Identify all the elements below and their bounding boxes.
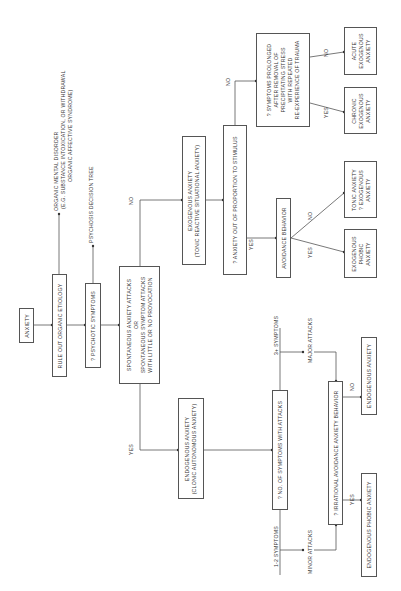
- edge-label-yes: YES: [323, 107, 330, 118]
- text-line: OR: [133, 277, 140, 374]
- node-prolonged-label: ? SYMPTOMS PROLONGED AFTER REMOVAL OF PR…: [266, 41, 301, 120]
- text-line: ANXIETY: [364, 236, 371, 271]
- node-anxiety-label: ANXIETY: [23, 314, 30, 338]
- edge-label-yes: YES: [307, 247, 314, 258]
- edge-label-1-2-symptoms: 1-2 SYMPTOMS: [273, 526, 280, 567]
- text-line: EXOGENOUS ANXIETY: [187, 144, 194, 256]
- node-acute-exogenous: ACUTE EXOGENOUS ANXIETY: [344, 27, 377, 75]
- text-line: EXOGENOUS: [350, 236, 357, 271]
- node-spontaneous-attacks: SPONTANEOUS ANXIETY ATTACKS OR SPONTANEO…: [119, 266, 160, 384]
- node-exogenous-phobic-label: EXOGENOUS PHOBIC ANXIETY: [350, 236, 371, 271]
- text-line: EXOGENOUS: [357, 33, 364, 68]
- node-endogenous-label: ENDOGENOUS ANXIETY (CLONIC AUTONOMOUS AN…: [184, 403, 198, 494]
- node-out-of-proportion-label: ? ANXIETY OUT OF PROPORTION TO STIMULUS: [232, 136, 239, 263]
- edge-label-minor-attacks: MINOR ATTACKS: [307, 530, 314, 574]
- organic-disorder-text-1: ORGANIC MENTAL DISORDER: [53, 131, 60, 211]
- node-rule-out-organic: RULE OUT ORGANIC ETIOLOGY: [52, 274, 67, 377]
- text-line: ? EXOGENOUS: [357, 169, 364, 211]
- text-line: AFTER REMOVAL OF: [273, 41, 280, 120]
- edge-label-major-attacks: MAJOR ATTACKS: [307, 318, 314, 363]
- node-out-of-proportion: ? ANXIETY OUT OF PROPORTION TO STIMULUS: [223, 125, 247, 275]
- node-exogenous-anxiety: EXOGENOUS ANXIETY (TONIC REACTIVE SITUAT…: [182, 136, 206, 265]
- node-avoidance-behavior: AVOIDANCE BEHAVIOR: [276, 198, 291, 278]
- edge-label-3plus-symptoms: 3+ SYMPTOMS: [273, 316, 280, 355]
- text-line: EXOGENOUS: [357, 93, 364, 128]
- text-line: ACUTE: [350, 33, 357, 68]
- node-exogenous-label: EXOGENOUS ANXIETY (TONIC REACTIVE SITUAT…: [187, 144, 201, 256]
- organic-disorder-text-3: ORGANIC AFFECTIVE SYNDROME): [67, 90, 74, 182]
- node-rule-out-label: RULE OUT ORGANIC ETIOLOGY: [56, 283, 63, 368]
- text-line: SPONTANEOUS SYMPTOM ATTACKS: [140, 277, 147, 374]
- text-line: PRECIPITATING STRESS: [280, 41, 287, 120]
- text-line: PHOBIC: [357, 236, 364, 271]
- edge-label-no: NO: [225, 78, 232, 86]
- node-psychotic-label: ? PSYCHOTIC SYMPTOMS: [90, 291, 97, 361]
- node-spontaneous-label: SPONTANEOUS ANXIETY ATTACKS OR SPONTANEO…: [126, 277, 154, 374]
- node-irrational-label: ? IRRATIONAL AVOIDANCE ANXIETY BEHAVIOR: [332, 390, 339, 515]
- psychosis-decision-tree-text: PSYCHOSIS DECISION TREE: [88, 166, 95, 243]
- node-acute-label: ACUTE EXOGENOUS ANXIETY: [350, 33, 371, 68]
- node-endogenous-phobic-label: ENDOGENOUS PHOBIC ANXIETY: [366, 481, 373, 568]
- node-tonic-label: TONIC ANXIETY ? EXOGENOUS ANXIETY: [350, 169, 371, 211]
- text-line: (TONIC REACTIVE SITUATIONAL ANXIETY): [194, 144, 201, 256]
- node-irrational-avoidance: ? IRRATIONAL AVOIDANCE ANXIETY BEHAVIOR: [328, 381, 343, 525]
- decision-tree-diagram: ANXIETY RULE OUT ORGANIC ETIOLOGY ? PSYC…: [0, 0, 401, 591]
- edge-label-no: NO: [128, 197, 135, 205]
- text-line: ENDOGENOUS ANXIETY: [184, 403, 191, 494]
- edge-label-yes: YES: [248, 239, 255, 250]
- node-exogenous-phobic: EXOGENOUS PHOBIC ANXIETY: [344, 229, 377, 278]
- node-psychotic-symptoms: ? PSYCHOTIC SYMPTOMS: [85, 283, 101, 368]
- text-line: TONIC ANXIETY: [350, 169, 357, 211]
- node-endogenous-anxiety: ENDOGENOUS ANXIETY (CLONIC AUTONOMOUS AN…: [178, 398, 204, 499]
- node-avoidance-label: AVOIDANCE BEHAVIOR: [280, 207, 287, 269]
- node-symptoms-prolonged: ? SYMPTOMS PROLONGED AFTER REMOVAL OF PR…: [256, 33, 310, 127]
- text-line: ANXIETY: [364, 33, 371, 68]
- text-line: WITH REPEATED: [287, 41, 294, 120]
- organic-disorder-text-2: (E.G. SUBSTANCE INTOXICATION, OR WITHDRA…: [60, 71, 67, 210]
- edge-label-yes: YES: [128, 444, 135, 455]
- node-chronic-label: CHRONIC EXOGENOUS ANXIETY: [350, 93, 371, 128]
- text-line: ? SYMPTOMS PROLONGED: [266, 41, 273, 120]
- edge-label-no: NO: [349, 383, 356, 391]
- node-no-of-symptoms: ? NO. OF SYMPTOMS WITH ATTACKS: [272, 390, 288, 510]
- node-tonic-anxiety: TONIC ANXIETY ? EXOGENOUS ANXIETY: [344, 161, 377, 218]
- text-line: CHRONIC: [350, 93, 357, 128]
- edge-label-yes: YES: [349, 494, 356, 505]
- node-anxiety: ANXIETY: [19, 308, 34, 343]
- text-line: WITH LITTLE OR NO PROVOCATION: [147, 277, 154, 374]
- edge-label-no: NO: [307, 212, 314, 220]
- text-line: SPONTANEOUS ANXIETY ATTACKS: [126, 277, 133, 374]
- node-endogenous-anxiety-result: ENDOGENOUS ANXIETY: [361, 337, 377, 415]
- node-endogenous-phobic: ENDOGENOUS PHOBIC ANXIETY: [361, 473, 377, 577]
- text-line: (CLONIC AUTONOMOUS ANXIETY): [191, 403, 198, 494]
- node-no-of-symptoms-label: ? NO. OF SYMPTOMS WITH ATTACKS: [277, 401, 284, 499]
- text-line: ANXIETY: [364, 93, 371, 128]
- node-chronic-exogenous: CHRONIC EXOGENOUS ANXIETY: [344, 87, 377, 134]
- text-line: ANXIETY: [364, 169, 371, 211]
- text-line: RE-EXPERIENCE OF TRAUMA: [294, 41, 301, 120]
- node-endogenous-result-label: ENDOGENOUS ANXIETY: [366, 344, 373, 408]
- edge-label-no: NO: [323, 49, 330, 57]
